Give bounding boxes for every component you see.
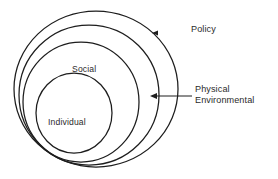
label-physical-line2: Environmental <box>195 95 254 106</box>
ring-social <box>23 42 139 162</box>
physical-environmental-arrow-head <box>150 93 157 99</box>
label-social: Social <box>72 64 96 74</box>
label-physical-line1: Physical <box>195 84 254 95</box>
socioecological-model-diagram: Social Individual Policy Physical Enviro… <box>0 0 278 179</box>
label-individual: Individual <box>48 117 86 127</box>
ring-individual <box>36 73 112 153</box>
label-policy: Policy <box>191 24 216 35</box>
physical-environmental-callout-pointer <box>150 93 192 99</box>
label-physical-environmental: Physical Environmental <box>195 84 254 106</box>
